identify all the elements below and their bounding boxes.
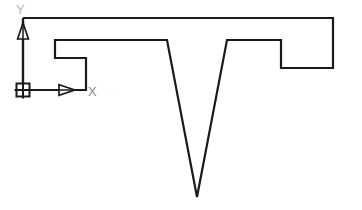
x-axis-label: X xyxy=(88,84,97,99)
y-axis-label: Y xyxy=(16,2,25,17)
profile-outline-path[interactable] xyxy=(23,18,333,197)
drawing-canvas[interactable]: X Y xyxy=(0,0,362,210)
cad-viewport[interactable]: X Y xyxy=(0,0,362,210)
